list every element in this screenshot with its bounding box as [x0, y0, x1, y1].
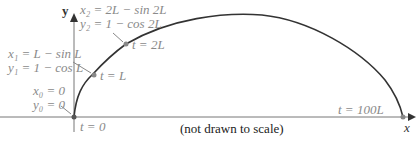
point-tL — [92, 73, 97, 78]
point-t2L — [124, 42, 129, 47]
t2L-label: t = 2L — [132, 38, 165, 52]
point-t100L — [401, 115, 406, 120]
y1-equation: y₁ = 1 − cos L — [8, 61, 83, 75]
x2-equation: x₂ = 2L − sin 2L — [80, 3, 166, 17]
t100L-label: t = 100L — [338, 103, 384, 117]
pointer-t2L — [113, 33, 123, 42]
x-axis-label: x — [404, 120, 410, 136]
t0-label: t = 0 — [80, 120, 105, 134]
point-t0 — [72, 115, 77, 120]
x1-equation: x₁ = L − sin L — [8, 47, 81, 61]
y-axis-arrow-icon — [70, 13, 78, 22]
scale-note: (not drawn to scale) — [180, 121, 284, 137]
y0-equation: y₀ = 0 — [33, 98, 65, 112]
x0-equation: x₀ = 0 — [33, 84, 65, 98]
tL-label: t = L — [100, 69, 126, 83]
y-axis-label: y — [62, 3, 69, 19]
y2-equation: y₂ = 1 − cos 2L — [80, 17, 162, 31]
